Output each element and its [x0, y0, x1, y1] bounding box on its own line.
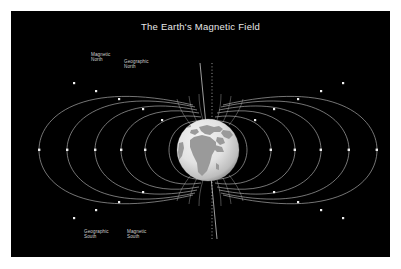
label-magnetic-south: Magnetic South: [127, 229, 146, 240]
magnetic-field-svg: [11, 11, 390, 257]
label-magnetic-north: Magnetic North: [91, 52, 110, 63]
label-geographic-south-line2: South: [84, 234, 109, 239]
label-magnetic-north-line2: North: [91, 57, 110, 62]
diagram-canvas: The Earth's Magnetic Field Magnetic Nort…: [11, 11, 390, 257]
label-magnetic-south-line2: South: [127, 234, 146, 239]
label-geographic-north: Geographic North: [124, 59, 149, 70]
label-geographic-north-line2: North: [124, 64, 149, 69]
page-title: The Earth's Magnetic Field: [11, 21, 390, 32]
label-geographic-south: Geographic South: [84, 229, 109, 240]
earth-globe: [177, 119, 239, 181]
figure-root: The Earth's Magnetic Field Magnetic Nort…: [0, 0, 401, 269]
